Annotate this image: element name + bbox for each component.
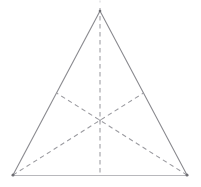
geometry-canvas xyxy=(0,0,201,187)
vertex-dot-bottom-left xyxy=(12,174,15,177)
median-from-bottom-left xyxy=(13,93,144,175)
triangle-medians-figure xyxy=(0,0,201,187)
median-from-bottom-right xyxy=(57,93,188,175)
vertex-dot-bottom-right xyxy=(186,174,189,177)
vertex-dot-apex xyxy=(99,10,102,13)
centroid-dot xyxy=(99,119,101,121)
